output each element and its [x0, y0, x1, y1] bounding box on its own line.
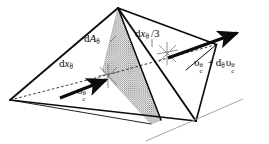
label-vout-subscript-2: c: [231, 68, 234, 75]
edge-apex-left: [10, 8, 118, 100]
label-area-dA-theta: dAθ: [84, 33, 100, 46]
edge-apex-rightback: [118, 8, 217, 45]
label-vout-subscript-1: c: [199, 68, 202, 75]
label-edge-subscript: θ: [69, 63, 72, 71]
label-area-subscript: θ: [96, 38, 99, 46]
label-vin-subscript: c: [82, 96, 85, 103]
centroid-marker-far: [157, 42, 178, 65]
label-vout-operator: +: [208, 56, 214, 68]
tetrahedron-flux-figure: dAθ dxθ dxθ/3 υθc υθc+dθυθc: [0, 0, 269, 144]
label-third-divisor: /3: [151, 27, 160, 39]
shaded-area-dA-theta: [103, 8, 162, 124]
label-velocity-in: υθc: [77, 85, 88, 96]
label-edge-dx-theta: dxθ: [59, 58, 73, 71]
label-third-subscript: θ: [145, 33, 148, 41]
edge-left-wedge: [10, 100, 151, 124]
edge-left-frontbottom: [10, 100, 196, 121]
label-edge-dx-theta-over-3: dxθ/3: [135, 28, 159, 41]
figure-canvas: [0, 0, 269, 144]
label-vout-d-subscript: θ: [221, 62, 224, 70]
velocity-out-arrow: [168, 33, 237, 58]
label-velocity-out: υθc+dθυθc: [194, 57, 236, 70]
